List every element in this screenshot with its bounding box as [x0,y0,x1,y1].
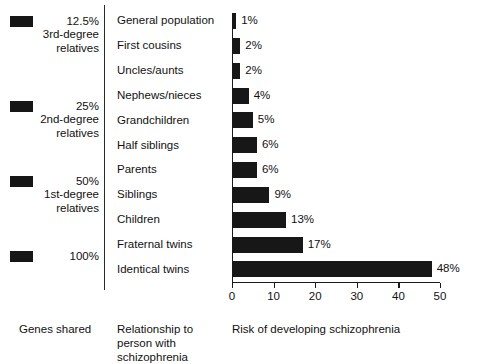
bar-value-label: 6% [262,138,279,151]
x-tick [274,283,275,288]
legend-entry-100: 100% [0,249,104,263]
bar-value-label: 13% [291,213,314,226]
bar [232,112,253,128]
legend-divider [104,5,105,290]
legend-percent: 50% [59,175,104,187]
legend-group-label: 1st-degree relatives [0,188,104,215]
x-axis-caption: Risk of developing schizophrenia [232,322,462,336]
legend-entry-50: 50% 1st-degree relatives [0,174,104,215]
category-label-column: General population First cousins Uncles/… [117,0,227,295]
x-tick-label: 30 [350,290,363,303]
legend-percent: 100% [59,250,104,262]
bar [232,88,249,104]
bar-value-label: 9% [274,188,291,201]
legend-row: 12.5% [0,14,104,28]
bar-value-label: 48% [437,262,460,275]
legend-swatch-icon [10,251,33,262]
bar [232,237,303,253]
bar [232,13,236,29]
bar [232,187,269,203]
legend-group-label: 2nd-degree relatives [0,113,104,140]
bar-value-label: 17% [308,238,331,251]
category-label: General population [117,14,214,27]
legend-swatch-icon [10,16,33,27]
bar [232,261,432,277]
relationship-caption: Relationship to person with schizophreni… [117,322,217,364]
bar [232,63,240,79]
legend-row: 100% [0,249,104,263]
x-tick-label: 20 [309,290,322,303]
category-label: Nephews/nieces [117,89,201,102]
bar [232,38,240,54]
legend-group-label: 3rd-degree relatives [0,28,104,55]
bar [232,162,257,178]
legend-entry-25: 25% 2nd-degree relatives [0,99,104,140]
category-label: Parents [117,163,157,176]
bar [232,137,257,153]
bar-value-label: 1% [241,14,258,27]
x-tick [315,283,316,288]
category-label: Children [117,213,160,226]
x-tick-label: 50 [434,290,447,303]
x-axis-line [232,282,440,283]
category-label: First cousins [117,39,182,52]
bar-value-label: 2% [245,64,262,77]
x-tick-label: 0 [229,290,235,303]
category-label: Grandchildren [117,114,189,127]
legend-row: 25% [0,99,104,113]
category-label: Fraternal twins [117,238,192,251]
legend-percent: 25% [59,100,104,112]
legend-entry-12-5: 12.5% 3rd-degree relatives [0,14,104,55]
category-label: Half siblings [117,139,179,152]
x-tick [357,283,358,288]
x-tick-label: 10 [267,290,280,303]
x-tick [398,283,399,288]
legend-swatch-icon [10,101,33,112]
legend-percent: 12.5% [59,15,104,27]
bar-value-label: 4% [254,89,271,102]
x-tick-label: 40 [392,290,405,303]
category-label: Uncles/aunts [117,64,183,77]
bar [232,212,286,228]
bar-value-label: 5% [258,113,275,126]
genes-shared-legend: 12.5% 3rd-degree relatives 25% 2nd-degre… [0,0,104,300]
legend-row: 50% [0,174,104,188]
x-tick [232,283,233,288]
category-label: Siblings [117,188,157,201]
bar-value-label: 2% [245,39,262,52]
legend-swatch-icon [10,176,33,187]
plot-area: 0 10 20 30 40 50 1% 2% 2% 4% 5% 6% 6% 9%… [232,0,481,300]
bar-value-label: 6% [262,163,279,176]
category-label: Identical twins [117,263,189,276]
x-tick [440,283,441,288]
genes-shared-caption: Genes shared [19,322,107,336]
